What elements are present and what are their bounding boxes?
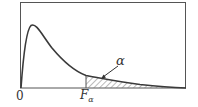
- critical-value-label: Fα: [80, 88, 94, 104]
- origin-label: 0: [16, 89, 24, 103]
- plot-frame: [21, 3, 186, 89]
- tail-area-label: α: [116, 53, 125, 68]
- density-curve: [21, 25, 186, 88]
- f-distribution-diagram: [0, 0, 198, 107]
